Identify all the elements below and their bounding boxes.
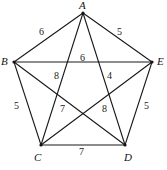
vertex-label-c: C bbox=[34, 152, 41, 163]
edge-ac bbox=[41, 13, 83, 145]
vertex-node-e bbox=[150, 60, 153, 63]
edges-group bbox=[14, 13, 152, 145]
edge-weight-ce: 7 bbox=[60, 104, 65, 114]
vertex-node-a bbox=[81, 11, 84, 14]
edge-weight-bc: 5 bbox=[14, 101, 19, 111]
edge-ab bbox=[14, 13, 83, 62]
vertex-label-d: D bbox=[124, 152, 132, 163]
edge-weight-be: 6 bbox=[80, 53, 85, 63]
edge-ae bbox=[83, 13, 152, 62]
vertex-node-d bbox=[123, 143, 126, 146]
graph-figure: 6565578478ABECD bbox=[0, 0, 167, 170]
edge-weight-ac: 8 bbox=[54, 71, 59, 81]
edge-weight-ae: 5 bbox=[117, 27, 122, 37]
vertex-label-a: A bbox=[79, 0, 86, 11]
vertices-group bbox=[12, 11, 153, 146]
edge-weight-bd: 8 bbox=[102, 104, 107, 114]
edge-weight-ab: 6 bbox=[39, 27, 44, 37]
edge-weight-de: 5 bbox=[144, 101, 149, 111]
vertex-node-b bbox=[12, 60, 15, 63]
vertex-label-e: E bbox=[157, 56, 164, 67]
edge-weight-cd: 7 bbox=[79, 147, 84, 157]
vertex-node-c bbox=[39, 143, 42, 146]
vertex-label-b: B bbox=[1, 56, 8, 67]
edge-weight-ad: 4 bbox=[107, 71, 112, 81]
graph-canvas bbox=[0, 0, 167, 170]
